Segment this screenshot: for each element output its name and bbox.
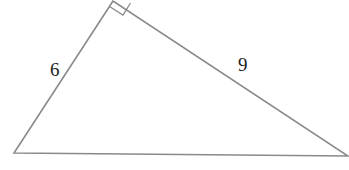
left-leg-label: 6 <box>50 59 60 80</box>
triangle <box>14 1 348 156</box>
triangle-diagram: 6 9 <box>0 0 349 170</box>
right-leg-label: 9 <box>238 54 248 75</box>
